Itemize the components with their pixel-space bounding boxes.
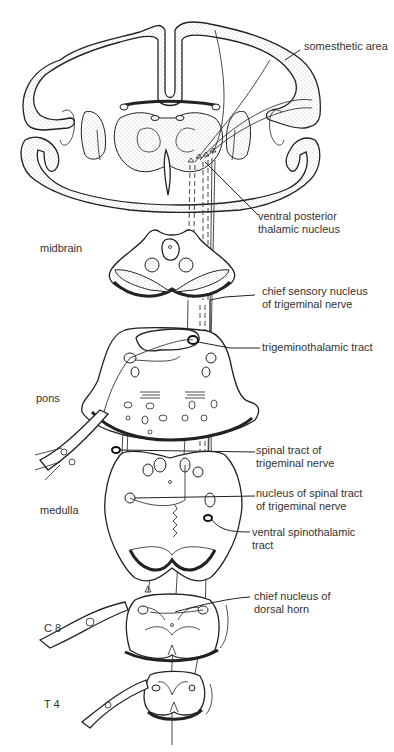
region-label-c8: C 8 (44, 622, 61, 634)
region-label-medulla: medulla (40, 504, 79, 516)
midbrain-section (109, 230, 234, 296)
medulla-section (105, 447, 242, 581)
region-label-t4: T 4 (44, 698, 60, 710)
label-ventral-spinothalamic-tract: ventral spinothalamic tract (252, 526, 355, 552)
label-somesthetic-area: somesthetic area (304, 40, 388, 53)
t4-spinal-section (82, 671, 212, 745)
c8-spinal-section (40, 580, 228, 661)
label-spinal-tract-trigeminal: spinal tract of trigeminal nerve (256, 444, 334, 470)
cerebrum-section (21, 22, 320, 212)
label-chief-sensory-nucleus: chief sensory nucleus of trigeminal nerv… (262, 285, 368, 311)
region-label-midbrain: midbrain (40, 242, 82, 254)
anatomy-diagram (0, 0, 394, 752)
label-nucleus-spinal-tract: nucleus of spinal tract of trigeminal ne… (256, 487, 362, 513)
label-ventral-posterior-thalamic-nucleus: ventral posterior thalamic nucleus (258, 210, 340, 236)
label-trigeminothalamic-tract: trigeminothalamic tract (262, 341, 373, 354)
region-label-pons: pons (36, 392, 60, 404)
label-chief-nucleus-dorsal-horn: chief nucleus of dorsal horn (254, 590, 330, 616)
